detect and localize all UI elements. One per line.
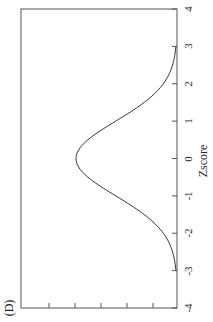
z-tick-label: 2 [182, 81, 194, 87]
plot-frame [21, 9, 177, 308]
density-axis-ticks [49, 303, 153, 308]
density-curve [76, 46, 176, 270]
x-axis-label: Zscore [196, 145, 211, 178]
z-tick-label: -2 [182, 229, 194, 238]
z-tick-label: 0 [182, 156, 194, 162]
z-tick-label: 1 [182, 118, 194, 124]
z-tick-label: -1 [182, 191, 194, 200]
z-tick-label: -4 [182, 303, 194, 312]
z-tick-label: -3 [182, 266, 194, 275]
z-tick-label: 3 [182, 44, 194, 50]
z-tick-label: 4 [182, 6, 194, 12]
panel-label: (D) [2, 300, 17, 317]
